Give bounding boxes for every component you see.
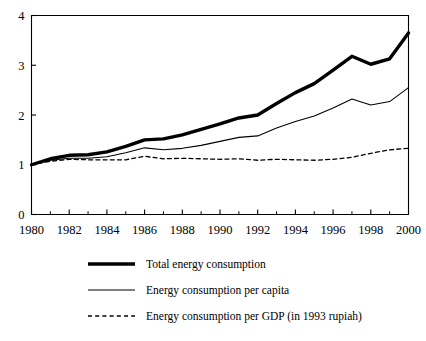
x-axis-tick-label: 1986 <box>132 223 157 237</box>
y-axis-tick-label: 1 <box>18 158 24 172</box>
legend-item-label: Energy consumption per GDP (in 1993 rupi… <box>146 310 362 323</box>
y-axis-tick-label: 4 <box>18 9 25 23</box>
x-axis-tick-label: 1996 <box>321 223 346 237</box>
x-axis-tick-label: 1994 <box>283 223 309 237</box>
x-axis-tick-label: 1988 <box>170 223 195 237</box>
x-axis-tick-labels: 1980198219841986198819901992199419961998… <box>19 223 421 237</box>
x-axis-tick-label: 1982 <box>57 223 82 237</box>
x-axis-tick-label: 1992 <box>245 223 270 237</box>
x-axis-tick-label: 2000 <box>396 223 421 237</box>
legend-item-label: Energy consumption per capita <box>146 284 289 297</box>
x-axis-tick-label: 1990 <box>208 223 233 237</box>
y-axis-tick-label: 0 <box>18 208 24 222</box>
x-axis-tick-label: 1998 <box>358 223 383 237</box>
legend-item-label: Total energy consumption <box>146 258 266 271</box>
y-axis-tick-label: 2 <box>18 109 24 123</box>
y-axis-tick-label: 3 <box>18 59 24 73</box>
x-axis-tick-label: 1980 <box>19 223 44 237</box>
x-axis-tick-label: 1984 <box>94 223 120 237</box>
energy-consumption-index-chart: 01234 1980198219841986198819901992199419… <box>0 0 426 341</box>
chart-canvas: 01234 1980198219841986198819901992199419… <box>0 0 426 341</box>
